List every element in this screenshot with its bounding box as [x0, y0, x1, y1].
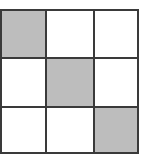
grid-cell-2-1 [47, 108, 95, 152]
grid-cell-1-0 [2, 59, 47, 108]
grid-cell-0-0-shaded [2, 11, 47, 59]
grid-cell-2-0 [2, 108, 47, 152]
grid-cell-0-2 [95, 11, 137, 59]
grid-3x3 [0, 9, 139, 154]
grid-cell-1-1-shaded [47, 59, 95, 108]
grid-cell-1-2 [95, 59, 137, 108]
grid-cell-2-2-shaded [95, 108, 137, 152]
grid-cell-0-1 [47, 11, 95, 59]
